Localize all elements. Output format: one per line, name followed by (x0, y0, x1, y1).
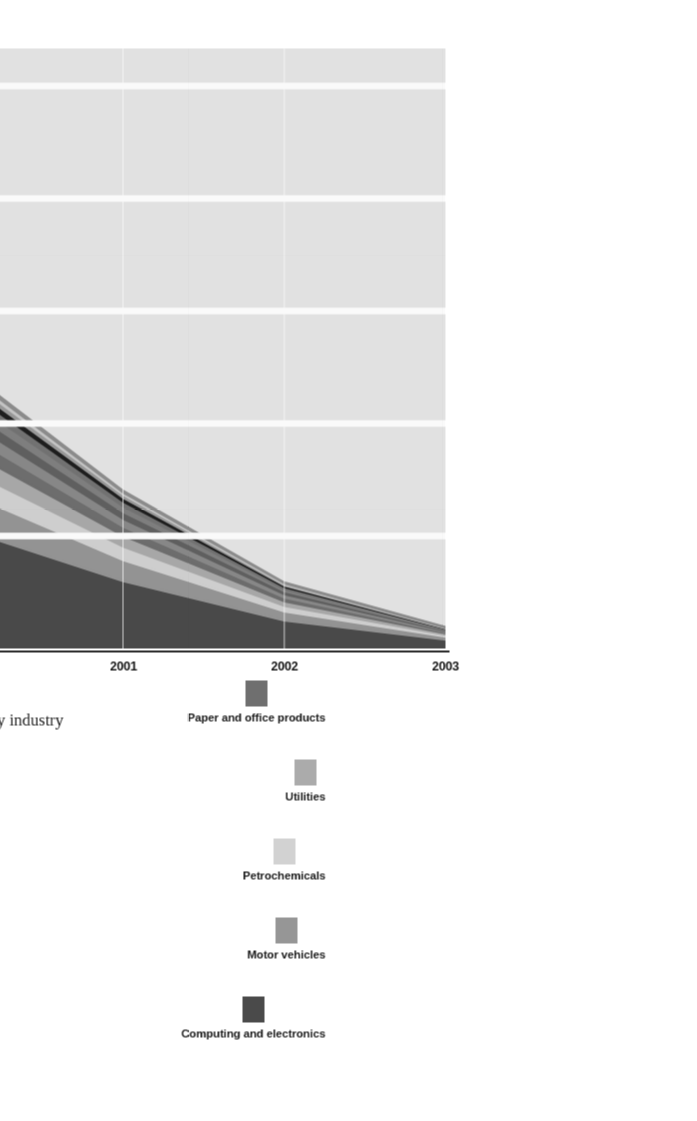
legend-item-label: Petrochemicals (242, 870, 325, 882)
figure-caption: Figure 5.2 U.S. B2B Internet commerce re… (0, 710, 63, 730)
legend-swatch-icon (275, 917, 297, 943)
stacked-area-chart (0, 48, 445, 648)
x-axis-tick-label: 2003 (431, 659, 458, 673)
legend-item: Motor vehicles (247, 917, 325, 996)
legend-item: Utilities (285, 759, 325, 838)
x-axis-line (0, 650, 449, 652)
legend-item: Paper and office products (187, 680, 325, 759)
chart-plot-area (0, 48, 445, 648)
legend-swatch-icon (245, 680, 267, 706)
x-axis-tick-label: 2002 (270, 659, 297, 673)
scanned-figure-page: Industrial equipmentHeavy industriesCons… (0, 0, 697, 1121)
legend-item: Computing and electronics (181, 996, 325, 1075)
figure-5-2: Industrial equipmentHeavy industriesCons… (0, 0, 697, 1121)
legend-item-label: Utilities (285, 791, 325, 803)
legend-item-label: Motor vehicles (247, 949, 325, 961)
legend-item-label: Paper and office products (187, 712, 325, 724)
legend-swatch-icon (242, 996, 264, 1022)
legend-item-label: Computing and electronics (181, 1028, 325, 1040)
legend-swatch-icon (273, 838, 295, 864)
legend-item: Petrochemicals (242, 838, 325, 917)
caption-text: U.S. B2B Internet commerce revenue by in… (0, 710, 63, 729)
x-axis-tick-label: 2001 (109, 659, 136, 673)
legend-swatch-icon (294, 759, 316, 785)
